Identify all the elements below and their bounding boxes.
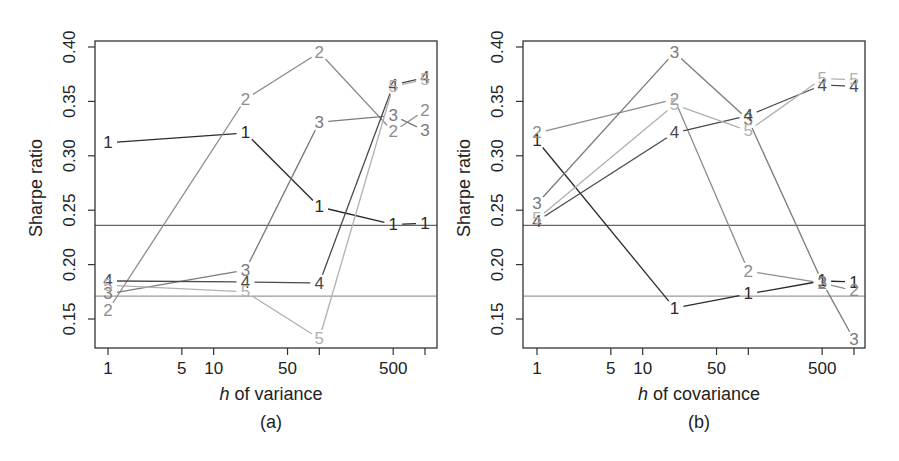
series-segment	[254, 282, 310, 283]
series-segment	[322, 95, 391, 330]
y-tick-label: 0.30	[488, 139, 507, 172]
data-point-marker: 1	[670, 299, 679, 318]
y-tick-label: 0.25	[60, 194, 79, 227]
data-point-marker: 5	[670, 95, 679, 114]
series-segment	[757, 282, 813, 292]
series-segment	[249, 130, 315, 262]
x-axis-title: h of covariance	[638, 384, 760, 404]
data-point-marker: 1	[388, 215, 397, 234]
data-point-marker: 5	[315, 329, 324, 348]
y-axis-title: Sharpe ratio	[454, 139, 474, 237]
data-point-marker: 3	[849, 330, 858, 349]
panel-label: (a)	[260, 412, 282, 432]
data-point-marker: 3	[670, 43, 679, 62]
series-segment	[252, 139, 313, 200]
y-tick-label: 0.20	[60, 248, 79, 281]
series-3: 33333	[103, 106, 429, 303]
y-tick-label: 0.30	[60, 139, 79, 172]
panel-b-covariance: 0.150.200.250.300.350.40151050500h of co…	[454, 30, 865, 432]
y-tick-label: 0.40	[60, 30, 79, 63]
x-tick-label: 1	[103, 359, 112, 378]
panel-a-variance: 0.150.200.250.300.350.40151050500h of va…	[26, 30, 437, 432]
series-1: 11111	[532, 131, 858, 318]
data-point-marker: 3	[420, 121, 429, 140]
data-point-marker: 1	[420, 214, 429, 233]
series-segment	[328, 116, 384, 121]
x-tick-label: 50	[707, 359, 726, 378]
data-point-marker: 1	[744, 284, 753, 303]
plot-frame	[95, 41, 437, 348]
data-point-marker: 1	[315, 197, 324, 216]
data-point-marker: 5	[849, 70, 858, 89]
y-tick-label: 0.15	[488, 302, 507, 335]
data-point-marker: 4	[315, 274, 324, 293]
data-point-marker: 5	[241, 282, 250, 301]
x-tick-label: 500	[808, 359, 836, 378]
series-segment	[683, 296, 739, 307]
y-tick-label: 0.20	[488, 248, 507, 281]
series-segment	[545, 138, 667, 216]
data-point-marker: 3	[388, 106, 397, 125]
series-4: 44444	[532, 76, 858, 231]
series-segment	[253, 297, 312, 334]
data-point-marker: 5	[532, 209, 541, 228]
data-point-marker: 2	[532, 123, 541, 142]
panel-label: (b)	[688, 412, 710, 432]
series-segment	[757, 89, 814, 113]
series-segment	[117, 281, 236, 282]
data-point-marker: 2	[103, 301, 112, 320]
series-segment	[117, 286, 236, 292]
data-point-marker: 1	[103, 133, 112, 152]
data-point-marker: 4	[670, 123, 679, 142]
series-5: 55555	[103, 70, 429, 348]
x-tick-label: 5	[606, 359, 615, 378]
series-segment	[756, 84, 815, 126]
data-point-marker: 2	[744, 262, 753, 281]
x-tick-label: 500	[379, 359, 407, 378]
data-point-marker: 2	[241, 90, 250, 109]
x-tick-label: 1	[532, 359, 541, 378]
y-tick-label: 0.15	[60, 302, 79, 335]
series-3: 33333	[532, 43, 858, 349]
plot-frame	[523, 41, 865, 348]
data-point-marker: 3	[315, 113, 324, 132]
data-point-marker: 5	[420, 70, 429, 89]
data-point-marker: 2	[849, 281, 858, 300]
data-point-marker: 2	[420, 101, 429, 120]
series-segment	[253, 57, 312, 94]
data-point-marker: 5	[103, 276, 112, 295]
series-1: 11111	[103, 123, 429, 233]
series-segment	[113, 107, 241, 303]
series-segment	[325, 59, 387, 125]
series-2: 22222	[103, 43, 429, 320]
data-point-marker: 3	[817, 273, 826, 292]
series-segment	[752, 128, 818, 274]
x-tick-label: 10	[204, 359, 223, 378]
y-tick-label: 0.35	[488, 85, 507, 118]
series-segment	[678, 107, 745, 262]
data-point-marker: 2	[315, 43, 324, 62]
data-point-marker: 5	[744, 121, 753, 140]
series-segment	[681, 59, 742, 114]
series-segment	[757, 273, 813, 282]
x-axis-title: h of variance	[219, 384, 322, 404]
data-point-marker: 5	[817, 69, 826, 88]
series-segment	[543, 148, 669, 302]
series-segment	[831, 285, 845, 288]
data-point-marker: 1	[241, 123, 250, 142]
y-tick-label: 0.35	[60, 85, 79, 118]
x-tick-label: 50	[278, 359, 297, 378]
x-tick-label: 5	[177, 359, 186, 378]
chart-figure: 0.150.200.250.300.350.40151050500h of va…	[0, 0, 899, 461]
y-axis-title: Sharpe ratio	[26, 139, 46, 237]
data-point-marker: 5	[388, 77, 397, 96]
series-4: 44444	[103, 68, 429, 293]
x-tick-label: 10	[633, 359, 652, 378]
data-point-marker: 2	[388, 122, 397, 141]
y-tick-label: 0.25	[488, 194, 507, 227]
series-segment	[544, 110, 668, 213]
y-tick-label: 0.40	[488, 30, 507, 63]
